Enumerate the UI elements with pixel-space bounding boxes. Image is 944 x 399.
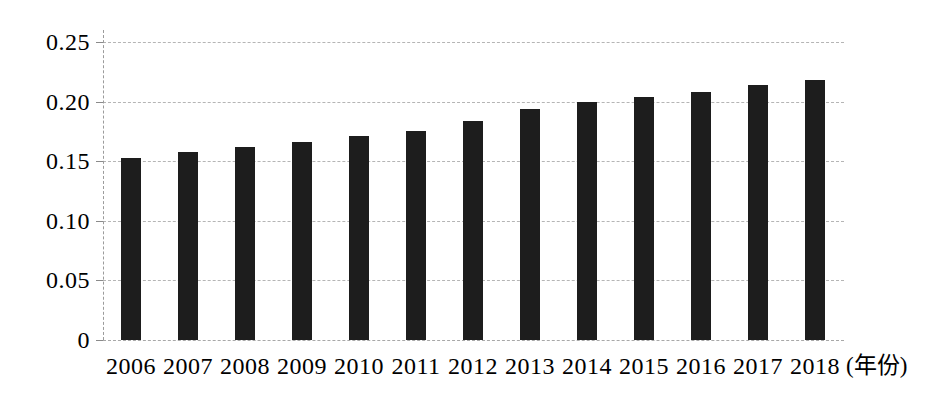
bar-2007 — [178, 152, 198, 340]
x-tick-label-2018: 2018 — [778, 353, 852, 379]
bar-2006 — [121, 158, 141, 340]
bar-2013 — [520, 109, 540, 340]
y-tick-label: 0 — [18, 326, 90, 354]
bar-2008 — [235, 147, 255, 340]
bar-2017 — [748, 85, 768, 340]
y-axis — [103, 30, 104, 340]
y-tick-label: 0.05 — [18, 266, 90, 294]
gridline-0.2 — [103, 102, 844, 103]
bar-2014 — [577, 102, 597, 340]
bar-2015 — [634, 97, 654, 340]
y-tick-0 — [96, 340, 103, 341]
y-tick-label: 0.10 — [18, 207, 90, 235]
gridline-0.25 — [103, 42, 844, 43]
bar-2009 — [292, 142, 312, 340]
y-tick-0.20 — [96, 102, 103, 103]
x-axis — [103, 340, 844, 341]
bar-2016 — [691, 92, 711, 340]
y-tick-0.05 — [96, 280, 103, 281]
y-tick-label: 0.15 — [18, 147, 90, 175]
y-tick-0.25 — [96, 42, 103, 43]
bar-2012 — [463, 121, 483, 340]
bar-2018 — [805, 80, 825, 340]
y-tick-0.15 — [96, 161, 103, 162]
y-tick-label: 0.20 — [18, 88, 90, 116]
y-tick-label: 0.25 — [18, 28, 90, 56]
bar-chart-figure: (年份) 00.050.100.150.200.2520062007200820… — [0, 0, 944, 399]
x-axis-unit-label: (年份) — [846, 353, 907, 379]
y-tick-0.10 — [96, 221, 103, 222]
bar-2010 — [349, 136, 369, 340]
bar-2011 — [406, 131, 426, 340]
